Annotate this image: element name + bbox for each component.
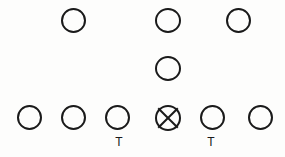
player-line-6[interactable]	[248, 105, 273, 130]
player-line-5[interactable]	[200, 105, 225, 130]
player-back-right[interactable]	[226, 8, 251, 33]
label-tackle-left: T	[112, 136, 126, 148]
player-line-3[interactable]	[105, 105, 130, 130]
player-mid-center[interactable]	[155, 56, 181, 81]
player-line-2[interactable]	[61, 105, 86, 130]
player-back-middle[interactable]	[155, 8, 181, 33]
label-tackle-right: T	[204, 136, 218, 148]
player-back-left[interactable]	[61, 8, 86, 33]
formation-diagram: T T	[0, 0, 285, 157]
player-line-1[interactable]	[17, 105, 42, 130]
circle-x-icon	[155, 105, 181, 131]
player-line-center-ball[interactable]	[155, 105, 181, 131]
